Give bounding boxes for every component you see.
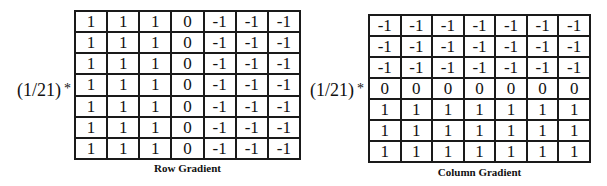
kernel-cell: -1 [204,117,236,138]
kernel-cell: 1 [369,120,401,141]
scale-factor: (1/21) [310,80,354,100]
kernel-cell: 1 [495,120,527,141]
kernel-cell: -1 [527,57,559,78]
kernel-row-5: 1110-1-1-1 [75,117,300,138]
kernel-cell: 1 [139,96,171,117]
kernel-cell: -1 [558,15,590,36]
kernel-cell: 1 [75,11,107,32]
kernel-cell: 1 [432,120,464,141]
kernel-cell: 1 [139,53,171,74]
kernel-cell: -1 [527,15,559,36]
kernel-cell: -1 [268,74,300,95]
kernel-cell: 0 [495,78,527,99]
kernel-cell: 1 [558,141,590,162]
kernel-cell: -1 [495,57,527,78]
kernel-row-2: 1110-1-1-1 [75,53,300,74]
kernel-cell: -1 [204,53,236,74]
kernel-cell: 0 [171,53,203,74]
kernel-cell: -1 [236,32,268,53]
kernel-cell: -1 [369,15,401,36]
kernel-cell: 0 [171,32,203,53]
kernel-cell: -1 [464,15,496,36]
kernel-cell: 1 [432,141,464,162]
kernel-cell: 1 [495,141,527,162]
column-gradient-kernel: -1-1-1-1-1-1-1-1-1-1-1-1-1-1-1-1-1-1-1-1… [368,14,591,163]
kernel-cell: 0 [527,78,559,99]
row-gradient-kernel: 1110-1-1-11110-1-1-11110-1-1-11110-1-1-1… [74,10,301,160]
kernel-cell: 1 [139,74,171,95]
kernel-cell: -1 [236,74,268,95]
row-gradient-scale-label: (1/21)* [17,80,71,102]
kernel-cell: 1 [107,117,139,138]
kernel-cell: 1 [75,53,107,74]
kernel-row-1: 1110-1-1-1 [75,32,300,53]
kernel-cell: -1 [268,138,300,159]
kernel-cell: -1 [495,36,527,57]
kernel-cell: -1 [401,36,433,57]
kernel-row-4: 1111111 [369,99,590,120]
kernel-cell: 1 [107,32,139,53]
kernel-row-1: -1-1-1-1-1-1-1 [369,36,590,57]
kernel-cell: 1 [558,120,590,141]
kernel-cell: -1 [369,36,401,57]
column-gradient-scale-label: (1/21)* [310,80,364,102]
kernel-cell: -1 [268,32,300,53]
kernel-cell: 1 [75,138,107,159]
kernel-row-6: 1111111 [369,141,590,162]
kernel-cell: -1 [369,57,401,78]
kernel-cell: -1 [432,36,464,57]
kernel-cell: 0 [171,117,203,138]
kernel-cell: 1 [401,141,433,162]
kernel-cell: -1 [268,96,300,117]
kernel-body: -1-1-1-1-1-1-1-1-1-1-1-1-1-1-1-1-1-1-1-1… [369,15,590,162]
kernel-cell: 0 [401,78,433,99]
kernel-cell: -1 [268,53,300,74]
kernel-cell: 0 [171,74,203,95]
kernel-cell: 1 [558,99,590,120]
kernel-cell: -1 [204,11,236,32]
multiply-operator: * [64,81,71,96]
kernel-cell: 1 [75,96,107,117]
kernel-cell: 0 [369,78,401,99]
kernel-cell: 0 [464,78,496,99]
kernel-cell: -1 [432,57,464,78]
kernel-cell: 1 [495,99,527,120]
kernel-row-2: -1-1-1-1-1-1-1 [369,57,590,78]
kernel-cell: -1 [268,117,300,138]
kernel-cell: 1 [75,117,107,138]
kernel-cell: 1 [464,99,496,120]
kernel-cell: -1 [236,96,268,117]
kernel-row-3: 0000000 [369,78,590,99]
kernel-cell: 1 [75,74,107,95]
kernel-cell: 0 [432,78,464,99]
kernel-cell: -1 [236,138,268,159]
kernel-cell: -1 [401,57,433,78]
kernel-cell: -1 [236,11,268,32]
kernel-cell: -1 [204,96,236,117]
kernel-cell: -1 [464,36,496,57]
kernel-cell: 1 [75,32,107,53]
kernel-cell: 1 [139,11,171,32]
kernel-cell: -1 [236,53,268,74]
kernel-cell: 1 [369,99,401,120]
kernel-cell: 1 [107,138,139,159]
kernel-cell: 1 [401,99,433,120]
kernel-cell: 1 [107,74,139,95]
kernel-cell: 0 [171,11,203,32]
multiply-operator: * [357,81,364,96]
kernel-cell: -1 [236,117,268,138]
kernel-cell: 1 [107,96,139,117]
kernel-cell: -1 [464,57,496,78]
kernel-cell: 1 [464,120,496,141]
kernel-cell: 1 [401,120,433,141]
kernel-cell: 1 [527,141,559,162]
kernel-body: 1110-1-1-11110-1-1-11110-1-1-11110-1-1-1… [75,11,300,159]
kernel-row-6: 1110-1-1-1 [75,138,300,159]
kernel-row-0: -1-1-1-1-1-1-1 [369,15,590,36]
kernel-cell: 1 [432,99,464,120]
kernel-cell: -1 [495,15,527,36]
kernel-cell: -1 [204,138,236,159]
kernel-cell: 0 [171,138,203,159]
kernel-cell: 1 [527,99,559,120]
kernel-cell: -1 [204,32,236,53]
